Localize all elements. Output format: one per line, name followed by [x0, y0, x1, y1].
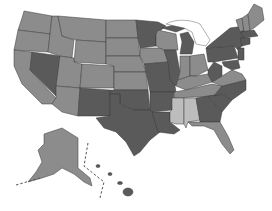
state-sd[interactable] — [106, 38, 140, 56]
state-oh[interactable] — [190, 54, 208, 76]
state-hi-maui[interactable] — [118, 182, 123, 185]
state-pa[interactable] — [206, 46, 238, 62]
state-hi-oahu[interactable] — [108, 173, 112, 176]
state-ks[interactable] — [114, 72, 148, 90]
state-ak[interactable] — [28, 128, 92, 186]
state-hi-big[interactable] — [123, 188, 133, 196]
state-or[interactable] — [14, 30, 50, 52]
state-nd[interactable] — [106, 20, 138, 38]
state-nm[interactable] — [78, 88, 110, 116]
state-ny[interactable] — [206, 26, 244, 50]
state-mi[interactable] — [180, 32, 194, 54]
inset-divider — [84, 143, 104, 198]
state-wy[interactable] — [74, 40, 106, 64]
state-ar[interactable] — [150, 92, 174, 112]
state-me[interactable] — [248, 4, 264, 30]
state-wi[interactable] — [156, 30, 178, 50]
state-fl[interactable] — [188, 122, 234, 154]
state-ms[interactable] — [170, 98, 184, 124]
state-ia[interactable] — [140, 48, 168, 64]
us-choropleth-map — [0, 0, 272, 211]
state-co[interactable] — [80, 64, 114, 88]
state-ct[interactable] — [240, 38, 250, 46]
state-nj[interactable] — [238, 48, 244, 60]
state-az[interactable] — [52, 86, 80, 116]
state-hi-kauai[interactable] — [96, 165, 100, 168]
state-md[interactable] — [222, 60, 240, 70]
